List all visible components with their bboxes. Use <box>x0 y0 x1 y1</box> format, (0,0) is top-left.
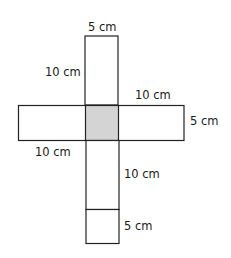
bottom-square <box>86 210 119 244</box>
label-bottom-height: 10 cm <box>124 167 160 181</box>
top-face <box>85 36 118 105</box>
label-right-length: 10 cm <box>135 88 171 102</box>
bottom-face <box>86 141 119 210</box>
label-bottom-square: 5 cm <box>124 219 153 233</box>
label-left-length: 10 cm <box>35 145 71 159</box>
label-right-height: 5 cm <box>190 114 219 128</box>
prism-net-diagram: 5 cm 10 cm 10 cm 5 cm 10 cm 10 cm 5 cm <box>0 0 231 258</box>
shaded-base-square <box>86 106 119 141</box>
label-top-width: 5 cm <box>88 20 117 34</box>
label-top-height: 10 cm <box>45 65 81 79</box>
